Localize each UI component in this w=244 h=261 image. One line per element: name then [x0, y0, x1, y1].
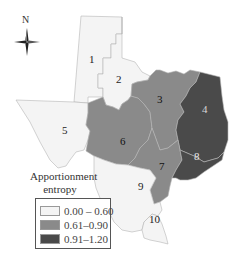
- legend-label-low: 0.00 – 0.60: [64, 205, 114, 217]
- legend-item-low: 0.00 – 0.60: [40, 205, 114, 217]
- legend-label-high: 0.91–1.20: [64, 233, 108, 245]
- region-label-8: 8: [194, 150, 200, 162]
- legend-item-mid: 0.61–0.90: [40, 219, 108, 231]
- legend-title-line1: Apportionment: [30, 170, 90, 183]
- region-label-2: 2: [116, 73, 122, 85]
- region-label-10: 10: [149, 213, 161, 225]
- region-label-3: 3: [157, 93, 163, 105]
- region-label-1: 1: [89, 53, 95, 65]
- legend-item-high: 0.91–1.20: [40, 233, 108, 245]
- legend-swatch-mid: [40, 220, 60, 230]
- region-label-4: 4: [202, 103, 208, 115]
- legend-label-mid: 0.61–0.90: [64, 219, 108, 231]
- region-label-7: 7: [159, 160, 165, 172]
- region-5[interactable]: [16, 100, 90, 168]
- compass-north-label: N: [22, 14, 29, 25]
- region-label-5: 5: [62, 124, 68, 136]
- region-label-9: 9: [138, 180, 144, 192]
- legend: 0.00 – 0.60 0.61–0.90 0.91–1.20: [35, 198, 111, 249]
- legend-title-line2: entropy: [30, 183, 90, 196]
- legend-swatch-low: [40, 206, 60, 216]
- legend-title: Apportionment entropy: [30, 170, 90, 196]
- region-label-6: 6: [120, 135, 126, 147]
- compass-rose-icon: [14, 28, 40, 56]
- legend-swatch-high: [40, 234, 60, 244]
